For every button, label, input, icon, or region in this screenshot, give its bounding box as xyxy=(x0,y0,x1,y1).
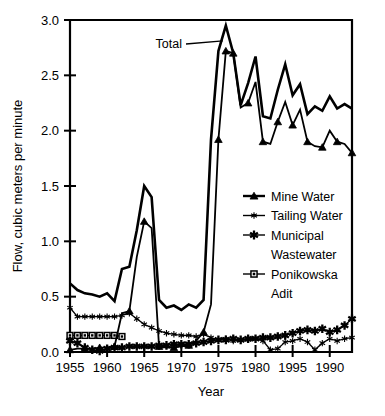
y-axis-title: Flow, cubic meters per minute xyxy=(10,100,25,273)
data-point-marker xyxy=(89,333,95,339)
data-point-marker xyxy=(82,333,88,339)
legend-label-continued: Wastewater xyxy=(271,248,337,262)
legend-label: Tailing Water xyxy=(271,209,343,223)
x-tick-label: 1965 xyxy=(130,360,159,375)
legend-label-continued: Adit xyxy=(271,287,293,301)
data-point-marker xyxy=(251,271,257,277)
y-tick-label: 0.0 xyxy=(41,345,59,360)
data-point-marker xyxy=(97,333,103,339)
y-tick-label: 3.0 xyxy=(41,13,59,28)
y-tick-label: 2.5 xyxy=(41,68,59,83)
x-tick-label: 1975 xyxy=(204,360,233,375)
y-tick-label: 2.0 xyxy=(41,123,59,138)
x-tick-label: 1990 xyxy=(315,360,344,375)
y-tick-label: 1.5 xyxy=(41,179,59,194)
x-tick-label: 1970 xyxy=(167,360,196,375)
legend-label: Mine Water xyxy=(271,190,334,204)
flow-line-chart: 0.00.51.01.52.02.53.0 195519601965197019… xyxy=(0,0,385,416)
data-point-marker xyxy=(119,334,125,340)
y-tick-label: 0.5 xyxy=(41,289,59,304)
x-tick-label: 1960 xyxy=(93,360,122,375)
x-tick-label: 1995 xyxy=(278,360,307,375)
x-tick-label: 1955 xyxy=(56,360,85,375)
x-tick-label: 1980 xyxy=(241,360,270,375)
x-axis-title: Year xyxy=(198,384,225,399)
data-point-marker xyxy=(104,333,110,339)
y-tick-label: 1.0 xyxy=(41,234,59,249)
data-point-marker xyxy=(75,333,81,339)
legend-label: Ponikowska xyxy=(271,268,338,282)
total-annotation-label: Total xyxy=(156,37,182,51)
legend-label: Municipal xyxy=(271,229,324,243)
chart-figure: 0.00.51.01.52.02.53.0 195519601965197019… xyxy=(0,0,385,416)
